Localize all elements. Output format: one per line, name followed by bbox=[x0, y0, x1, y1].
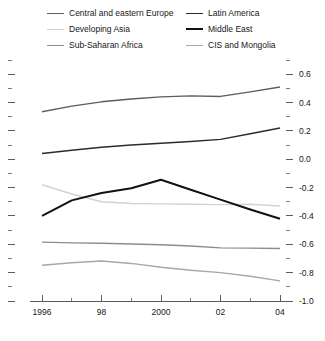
plot-area: 0.60.40.20.0-0.2-0.4-0.6-0.8-1.019969820… bbox=[0, 52, 325, 341]
legend-item[interactable]: Latin America bbox=[186, 6, 276, 20]
y-axis-tick-label: 0.2 bbox=[299, 126, 311, 136]
legend-column-right: Latin AmericaMiddle EastCIS and Mongolia bbox=[186, 6, 276, 54]
line-chart-svg: 0.60.40.20.0-0.2-0.4-0.6-0.8-1.019969820… bbox=[0, 52, 325, 341]
x-axis-tick-label: 02 bbox=[216, 307, 226, 317]
legend-line-swatch bbox=[186, 45, 203, 46]
legend-item[interactable]: CIS and Mongolia bbox=[186, 38, 276, 52]
legend-item[interactable]: Central and eastern Europe bbox=[47, 6, 173, 20]
legend-item[interactable]: Middle East bbox=[186, 22, 276, 36]
x-axis-tick-label: 98 bbox=[97, 307, 107, 317]
legend-line-swatch bbox=[186, 13, 203, 14]
legend-line-swatch bbox=[47, 29, 64, 30]
y-axis-tick-label: -0.2 bbox=[299, 183, 314, 193]
series-line bbox=[42, 242, 280, 248]
legend-item-label: CIS and Mongolia bbox=[208, 40, 276, 50]
y-axis-tick-label: -0.4 bbox=[299, 211, 314, 221]
chart-container: Central and eastern EuropeDeveloping Asi… bbox=[0, 0, 325, 341]
legend-item-label: Middle East bbox=[208, 24, 252, 34]
y-axis-tick-label: -0.8 bbox=[299, 268, 314, 278]
x-axis-tick-label: 1996 bbox=[33, 307, 52, 317]
x-axis-tick-label: 04 bbox=[275, 307, 285, 317]
legend-item-label: Developing Asia bbox=[69, 24, 130, 34]
legend-item-label: Central and eastern Europe bbox=[69, 8, 173, 18]
series-line bbox=[42, 128, 280, 154]
legend-item-label: Sub-Saharan Africa bbox=[69, 40, 143, 50]
y-axis-tick-label: 0.4 bbox=[299, 98, 311, 108]
series-line bbox=[42, 87, 280, 112]
series-layer bbox=[42, 87, 280, 281]
series-line bbox=[42, 185, 280, 206]
legend-item[interactable]: Sub-Saharan Africa bbox=[47, 38, 173, 52]
y-axis-tick-label: 0.6 bbox=[299, 69, 311, 79]
y-axis-tick-label: -1.0 bbox=[299, 296, 314, 306]
series-line bbox=[42, 261, 280, 281]
x-axis-tick-label: 2000 bbox=[152, 307, 171, 317]
legend-item-label: Latin America bbox=[208, 8, 260, 18]
legend-line-swatch bbox=[186, 28, 203, 30]
series-line bbox=[42, 180, 280, 219]
chart-legend: Central and eastern EuropeDeveloping Asi… bbox=[0, 0, 325, 52]
y-axis-tick-label: -0.6 bbox=[299, 239, 314, 249]
legend-line-swatch bbox=[47, 45, 64, 46]
legend-line-swatch bbox=[47, 13, 64, 14]
legend-column-left: Central and eastern EuropeDeveloping Asi… bbox=[47, 6, 173, 54]
y-axis-tick-label: 0.0 bbox=[299, 154, 311, 164]
legend-item[interactable]: Developing Asia bbox=[47, 22, 173, 36]
